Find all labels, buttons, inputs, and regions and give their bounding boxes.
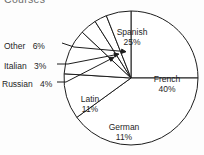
slice-label-other: Other 6% (4, 41, 45, 51)
slice-label-other-name: Other (4, 41, 25, 51)
slice-label-russian: Russian 4% (2, 79, 52, 89)
slice-label-russian-name: Russian (2, 79, 33, 89)
slice-label-italian-value: 3% (34, 61, 46, 71)
slice-label-latin: Latin 11% (68, 94, 112, 114)
slice-label-french-value: 40% (143, 84, 191, 94)
pie-chart-figure: Courses Spanish 25% French 40% German 11… (0, 0, 204, 155)
slice-label-spanish: Spanish 25% (104, 27, 160, 47)
slice-label-french: French 40% (143, 74, 191, 94)
slice-label-other-value: 6% (33, 41, 45, 51)
slice-label-german-value: 11% (100, 132, 148, 142)
slice-label-italian-name: Italian (4, 61, 27, 71)
slice-label-german-name: German (109, 122, 140, 132)
slice-label-italian: Italian 3% (4, 61, 46, 71)
slice-label-russian-value: 4% (40, 79, 52, 89)
slice-label-spanish-value: 25% (104, 37, 160, 47)
slice-label-german: German 11% (100, 122, 148, 142)
slice-label-latin-value: 11% (68, 104, 112, 114)
slice-label-spanish-name: Spanish (117, 27, 148, 37)
slice-label-latin-name: Latin (81, 94, 99, 104)
slice-label-french-name: French (154, 74, 180, 84)
